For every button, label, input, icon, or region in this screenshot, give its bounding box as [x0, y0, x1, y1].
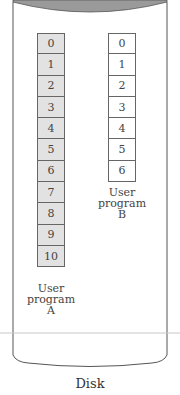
page-cell: 9: [37, 225, 65, 246]
program-b-pages: 0 1 2 3 4 5 6: [108, 33, 136, 182]
page-cell: 2: [37, 76, 65, 97]
page-cell: 0: [108, 33, 136, 54]
page-cell: 4: [37, 118, 65, 139]
disk-cylinder: [0, 0, 180, 395]
page-cell: 3: [108, 97, 136, 118]
label-line: B: [92, 209, 152, 220]
disk-top-cap: [13, 0, 167, 12]
page-cell: 6: [108, 161, 136, 182]
label-line: A: [21, 305, 81, 316]
program-a-pages: 0 1 2 3 4 5 6 7 8 9 10: [37, 33, 65, 267]
page-cell: 5: [37, 139, 65, 160]
disk-label: Disk: [0, 376, 180, 391]
page-cell: 4: [108, 118, 136, 139]
page-cell: 10: [37, 246, 65, 267]
page-cell: 6: [37, 161, 65, 182]
page-cell: 7: [37, 182, 65, 203]
page-cell: 1: [108, 54, 136, 75]
disk-bottom-edge: [13, 355, 167, 367]
program-b-label: User program B: [92, 187, 152, 220]
page-cell: 0: [37, 33, 65, 54]
page-cell: 5: [108, 139, 136, 160]
page-cell: 3: [37, 97, 65, 118]
page-cell: 8: [37, 203, 65, 224]
page-cell: 2: [108, 76, 136, 97]
page-cell: 1: [37, 54, 65, 75]
program-a-label: User program A: [21, 283, 81, 316]
